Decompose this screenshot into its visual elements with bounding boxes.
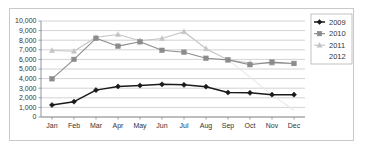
series-line [52,84,294,105]
x-tick-label: Aug [200,122,213,130]
x-axis-tick-labels: JanFebMarAprMayJunJulAugSepOctNovDec [46,117,300,130]
legend-label: 2009 [329,18,346,27]
data-point-marker [94,36,99,41]
x-tick-label: Nov [266,122,279,129]
data-point-marker [204,56,209,61]
data-point-marker [247,90,252,95]
x-tick-label: Jul [180,122,189,129]
data-point-marker [160,48,165,53]
data-point-marker [50,76,55,81]
series-line [52,32,294,64]
data-point-marker [226,58,231,63]
data-point-marker [72,57,77,62]
line-chart: 01,0002,0003,0004,0005,0006,0007,0008,00… [0,0,366,151]
y-tick-label: 3,000 [19,85,37,92]
x-tick-label: Mar [90,122,103,129]
y-tick-label: 2,000 [19,94,37,101]
data-point-marker [270,60,275,65]
data-point-marker [291,92,296,97]
y-tick-label: 1,000 [19,104,37,111]
data-point-marker [181,82,186,87]
x-tick-label: Feb [68,122,80,129]
x-tick-label: May [133,122,147,130]
data-point-marker [138,40,143,45]
data-point-marker [225,90,230,95]
x-tick-label: Jan [46,122,57,129]
y-axis-tick-labels: 01,0002,0003,0004,0005,0006,0007,0008,00… [15,17,41,120]
data-point-marker [159,82,164,87]
data-point-marker [317,31,322,36]
series-2012 [184,32,294,111]
y-tick-label: 5,000 [19,65,37,72]
legend-item-2012[interactable]: 2012 [329,52,346,61]
legend-label: 2010 [329,29,346,38]
x-tick-label: Sep [222,122,235,130]
series-line [52,38,294,79]
data-point-marker [71,99,76,104]
y-tick-label: 8,000 [19,37,37,44]
data-point-marker [116,44,121,49]
data-point-marker [181,29,186,34]
data-point-marker [292,61,297,66]
data-point-marker [115,32,120,37]
x-tick-label: Oct [245,122,256,129]
x-tick-label: Jun [156,122,167,129]
series-line [184,32,294,111]
data-point-marker [248,62,253,67]
series-2009 [49,82,296,108]
y-tick-label: 7,000 [19,46,37,53]
legend-label: 2012 [329,52,346,61]
legend-label: 2011 [329,41,345,50]
x-tick-label: Dec [288,122,301,129]
data-point-marker [49,102,54,107]
chart-legend[interactable]: 2009201020112012 [311,14,352,64]
data-point-marker [182,50,187,55]
y-tick-label: 6,000 [19,56,37,63]
data-point-marker [137,83,142,88]
y-tick-label: 0 [33,113,37,120]
y-tick-label: 9,000 [19,27,37,34]
y-tick-label: 4,000 [19,75,37,82]
x-tick-label: Apr [113,122,125,130]
y-tick-label: 10,000 [15,17,37,24]
